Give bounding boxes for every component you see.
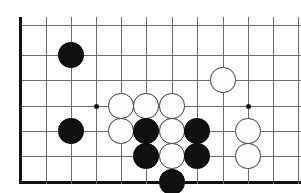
white-stone[interactable] bbox=[235, 143, 260, 168]
grid-line-vertical-11 bbox=[298, 17, 299, 184]
grid-line-vertical-1 bbox=[46, 17, 47, 184]
white-stone[interactable] bbox=[108, 93, 133, 118]
grid-line-vertical-8 bbox=[223, 17, 224, 184]
hoshi-left-point bbox=[94, 104, 99, 109]
black-stone[interactable] bbox=[184, 143, 209, 168]
black-stone[interactable] bbox=[58, 118, 83, 143]
black-stone[interactable] bbox=[133, 143, 158, 168]
black-stone[interactable] bbox=[58, 42, 83, 67]
black-stone[interactable] bbox=[133, 118, 158, 143]
white-stone[interactable] bbox=[159, 143, 184, 168]
hoshi-right-point bbox=[246, 104, 251, 109]
white-stone[interactable] bbox=[108, 118, 133, 143]
white-stone[interactable] bbox=[159, 93, 184, 118]
white-stone[interactable] bbox=[133, 93, 158, 118]
white-stone[interactable] bbox=[159, 118, 184, 143]
white-stone[interactable] bbox=[210, 67, 235, 92]
white-stone[interactable] bbox=[235, 118, 260, 143]
go-board[interactable] bbox=[0, 0, 301, 193]
go-board-surface[interactable] bbox=[0, 0, 301, 193]
board-left-edge bbox=[19, 17, 22, 184]
grid-line-vertical-10 bbox=[273, 17, 274, 184]
black-stone[interactable] bbox=[159, 169, 184, 193]
grid-line-vertical-3 bbox=[96, 17, 97, 184]
grid-line-horizontal-2 bbox=[19, 80, 301, 81]
black-stone[interactable] bbox=[184, 118, 209, 143]
grid-line-horizontal-0 bbox=[19, 25, 301, 26]
